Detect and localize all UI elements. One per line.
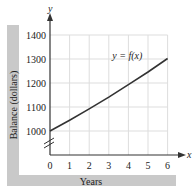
y-axis-symbol: y xyxy=(47,3,53,14)
x-axis-symbol: x xyxy=(186,149,192,160)
chart-figure: Balance (dollars) Years yx01234561000110… xyxy=(0,0,194,189)
x-tick-label: 4 xyxy=(126,160,131,171)
x-tick-label: 6 xyxy=(165,160,170,171)
x-tick-label: 5 xyxy=(146,160,151,171)
y-tick-label: 1100 xyxy=(26,102,46,113)
x-axis-arrow-icon xyxy=(178,152,186,158)
y-tick-label: 1300 xyxy=(26,54,46,65)
y-tick-label: 1000 xyxy=(26,126,46,137)
y-tick-label: 1400 xyxy=(26,30,46,41)
y-tick-label: 1200 xyxy=(26,78,46,89)
plot-area: yx012345610001100120013001400y = f(x) xyxy=(0,0,194,189)
x-tick-label: 3 xyxy=(106,160,111,171)
y-axis-arrow-icon xyxy=(47,13,53,21)
curve-annotation: y = f(x) xyxy=(111,50,143,62)
x-tick-label: 1 xyxy=(67,160,72,171)
x-tick-label: 2 xyxy=(87,160,92,171)
x-tick-label: 0 xyxy=(48,160,53,171)
